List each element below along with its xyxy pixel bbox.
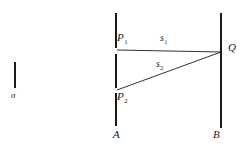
screen-a-label: A — [113, 129, 120, 140]
slit-p2-label: P2 — [117, 91, 127, 102]
path-s2-subscript: 2 — [160, 64, 163, 71]
slit-p2-subscript: 2 — [124, 97, 127, 104]
figure-canvas: σ P1 P2 s1 s2 Q A B — [0, 0, 243, 147]
slit-p1-label: P1 — [117, 32, 127, 43]
diagram-svg — [0, 0, 243, 147]
path-s1-label: s1 — [160, 33, 167, 43]
slit-p1-letter: P — [117, 31, 124, 43]
slit-p2-letter: P — [117, 90, 124, 102]
observation-point-label: Q — [228, 42, 236, 53]
source-label: σ — [11, 91, 15, 100]
path-s1-subscript: 1 — [164, 38, 167, 45]
slit-p1-subscript: 1 — [124, 38, 127, 45]
ray-s2-line — [117, 52, 221, 90]
path-s2-label: s2 — [156, 59, 163, 69]
ray-s1-line — [117, 50, 221, 52]
screen-b-label: B — [213, 129, 220, 140]
